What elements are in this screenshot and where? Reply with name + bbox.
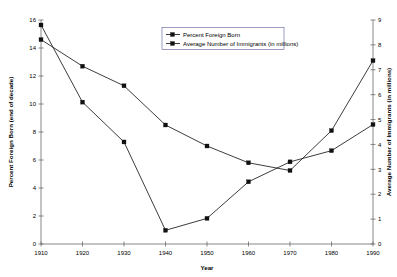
x-tick-label: 1920 [76, 250, 90, 256]
line-chart: 0246810121416 0123456789 191019201930194… [0, 0, 397, 277]
x-tick-label: 1940 [159, 250, 173, 256]
legend-swatch-marker-0 [171, 33, 175, 37]
chart-container: 0246810121416 0123456789 191019201930194… [0, 0, 397, 277]
x-tick-label: 1990 [366, 250, 380, 256]
data-point [81, 64, 85, 68]
legend-label-0: Percent Foreign Born [183, 32, 240, 38]
x-tick-label: 1950 [200, 250, 214, 256]
data-point [288, 169, 292, 173]
y-tick-label-right: 6 [378, 92, 382, 98]
y-axis-right-title: Average Number of Immigrants (in million… [385, 68, 392, 196]
data-point [247, 180, 251, 184]
data-point [371, 123, 375, 127]
legend-label-1: Average Number of Immigrants (in million… [183, 41, 298, 47]
y-tick-label-right: 4 [378, 142, 382, 148]
x-tick-label: 1910 [34, 250, 48, 256]
legend-swatch-marker-1 [171, 42, 175, 46]
data-point [39, 23, 43, 27]
data-point [205, 144, 209, 148]
y-tick-label-right: 9 [378, 17, 382, 23]
data-point [164, 123, 168, 127]
chart-legend: Percent Foreign Born Average Number of I… [162, 28, 298, 50]
x-tick-label: 1930 [117, 250, 131, 256]
data-point [288, 160, 292, 164]
series-line-1 [41, 25, 373, 230]
data-point [122, 140, 126, 144]
y-tick-label-left: 4 [33, 185, 37, 191]
y-tick-label-right: 2 [378, 191, 382, 197]
data-point [330, 129, 334, 133]
y-tick-label-right: 3 [378, 167, 382, 173]
axes-group [41, 20, 373, 244]
y-tick-label-left: 8 [33, 129, 37, 135]
series-1 [39, 23, 375, 232]
data-point [247, 161, 251, 165]
y-tick-label-left: 16 [29, 17, 36, 23]
series-group [39, 23, 375, 232]
data-point [205, 216, 209, 220]
data-point [81, 100, 85, 104]
data-point [371, 59, 375, 63]
y-tick-label-right: 7 [378, 67, 382, 73]
x-tick-label: 1970 [283, 250, 297, 256]
data-point [330, 149, 334, 153]
y-tick-label-right: 5 [378, 117, 382, 123]
y-tick-label-right: 1 [378, 216, 382, 222]
data-point [39, 38, 43, 42]
y-tick-label-left: 0 [33, 241, 37, 247]
data-point [122, 84, 126, 88]
y-axis-right-ticks: 0123456789 [371, 17, 383, 247]
x-tick-label: 1980 [325, 250, 339, 256]
y-tick-label-left: 6 [33, 157, 37, 163]
x-axis-title: Year [200, 264, 214, 271]
y-axis-left-title: Percent Foreign Born (end of decade) [7, 77, 14, 188]
y-tick-label-left: 10 [29, 101, 36, 107]
data-point [164, 228, 168, 232]
y-tick-label-right: 8 [378, 42, 382, 48]
y-tick-label-right: 0 [378, 241, 382, 247]
y-tick-label-left: 2 [33, 213, 37, 219]
y-tick-label-left: 12 [29, 73, 36, 79]
series-line-0 [41, 40, 373, 171]
x-tick-label: 1960 [242, 250, 256, 256]
y-tick-label-left: 14 [29, 45, 36, 51]
